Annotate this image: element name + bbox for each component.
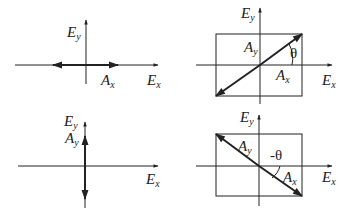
y-axis-label: Ey (239, 109, 254, 127)
panel-vertical: Ey Ex Ay (18, 113, 160, 208)
x-axis-label: Ex (321, 169, 336, 187)
amplitude-label-ay: Ay (243, 39, 258, 57)
x-axis-label: Ex (146, 72, 161, 90)
x-axis-label: Ex (145, 171, 160, 189)
x-axis-label: Ex (321, 72, 336, 90)
y-axis-label: Ey (63, 113, 78, 131)
polarization-diagram: Ey Ex Ax θ Ey Ex Ay Ax Ey Ex Ay -θ Ey (0, 0, 351, 219)
y-axis-label: Ey (240, 5, 255, 23)
angle-label-neg-theta: -θ (270, 147, 282, 163)
panel-horizontal: Ey Ex Ax (15, 20, 161, 90)
amplitude-label-ax: Ax (282, 169, 297, 187)
amplitude-label-ay: Ay (237, 138, 252, 156)
angle-label-theta: θ (290, 45, 297, 61)
amplitude-label-ay: Ay (64, 130, 79, 148)
y-axis-label: Ey (66, 24, 81, 42)
panel-diagonal-negative: -θ Ey Ex Ay Ax (196, 109, 336, 206)
polarization-vector-down (216, 65, 260, 96)
amplitude-label-ax: Ax (275, 67, 290, 85)
panel-diagonal-positive: θ Ey Ex Ay Ax (196, 5, 336, 104)
amplitude-label-ax: Ax (100, 72, 115, 90)
